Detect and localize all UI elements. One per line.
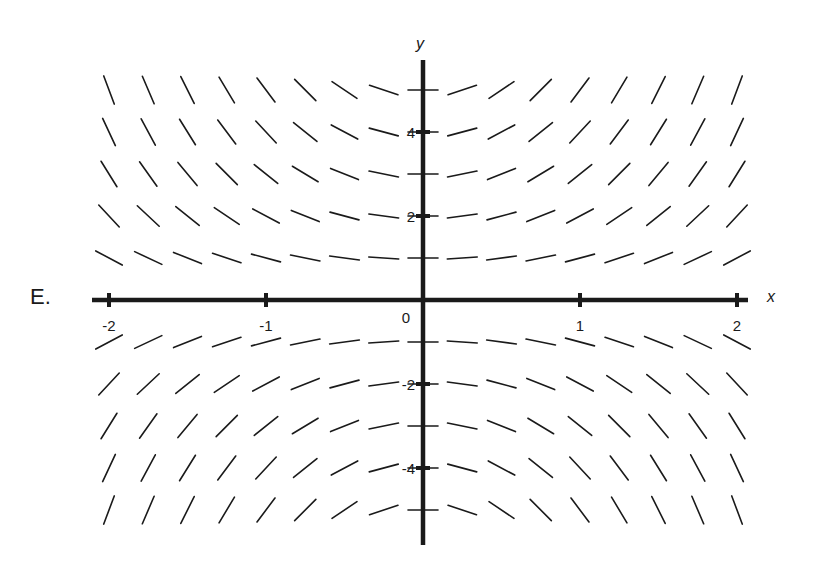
slope-segment <box>104 496 115 524</box>
slope-segment <box>137 374 159 395</box>
slope-segment <box>135 336 162 349</box>
y-tick-label: -4 <box>402 460 415 477</box>
slope-segment <box>612 497 627 523</box>
x-tick-label: 0 <box>402 309 410 326</box>
slope-segment <box>254 165 277 184</box>
slope-field-chart: -2-1012-4-224xy <box>0 0 816 565</box>
slope-segment <box>99 205 119 227</box>
slope-segment <box>488 125 514 139</box>
slope-segment <box>253 377 279 391</box>
x-tick-label: 1 <box>576 317 584 334</box>
slope-segment <box>649 414 668 437</box>
slope-segment <box>330 340 360 344</box>
y-tick-label: 4 <box>407 124 415 141</box>
slope-segment <box>647 207 670 226</box>
slope-segment <box>727 373 747 395</box>
slope-segment <box>689 162 706 186</box>
slope-segment <box>330 256 360 260</box>
slope-segment <box>692 76 704 104</box>
slope-segment <box>295 499 316 520</box>
slope-segment <box>607 376 632 393</box>
slope-segment <box>291 339 320 345</box>
slope-segment <box>652 497 665 524</box>
slope-segment <box>651 455 667 480</box>
slope-segment <box>253 209 279 223</box>
slope-segment <box>526 339 555 345</box>
slope-segment <box>174 336 202 347</box>
slope-segment <box>566 254 595 262</box>
slope-segment <box>732 76 743 104</box>
slope-segment <box>140 414 157 438</box>
slope-segment <box>214 208 239 225</box>
slope-segment <box>330 380 359 388</box>
slope-segment <box>294 123 317 142</box>
slope-segment <box>567 377 593 391</box>
slope-segment <box>487 340 517 344</box>
slope-segment <box>370 505 398 515</box>
slope-segment <box>142 496 154 524</box>
slope-segment <box>732 496 743 524</box>
axes <box>92 60 748 545</box>
slope-segment <box>645 336 673 347</box>
slope-segment <box>566 338 595 346</box>
slope-segment <box>256 121 276 143</box>
slope-segment <box>291 210 319 221</box>
slope-segment <box>489 82 514 99</box>
y-tick-label: 2 <box>407 208 415 225</box>
slope-segment <box>448 85 476 95</box>
slope-segment <box>294 459 317 478</box>
slope-segment <box>96 335 122 349</box>
slope-segment <box>99 373 119 395</box>
slope-segment <box>687 374 709 395</box>
slope-segment <box>610 120 628 144</box>
slope-segment <box>448 128 477 136</box>
slope-segment <box>724 335 750 349</box>
x-tick-label: -2 <box>102 317 115 334</box>
slope-segment <box>487 212 516 220</box>
slope-segment <box>256 457 276 479</box>
slope-segment <box>567 209 593 223</box>
slope-segment <box>447 341 477 343</box>
slope-segment <box>291 378 319 389</box>
slope-segment <box>488 168 516 179</box>
slope-segment <box>610 456 628 480</box>
x-tick-label: 2 <box>733 317 741 334</box>
slope-segment <box>180 119 196 144</box>
slope-segment <box>529 123 552 142</box>
slope-segment <box>687 206 709 227</box>
slope-segment <box>528 166 554 181</box>
slope-segment <box>568 165 591 184</box>
slope-segment <box>369 423 398 429</box>
slope-segment <box>612 77 627 103</box>
slope-segment <box>178 414 197 437</box>
slope-segment <box>135 252 162 265</box>
slope-segment <box>141 119 155 145</box>
y-tick-label: -2 <box>402 376 415 393</box>
slope-segment <box>447 257 477 259</box>
slope-segment <box>181 77 194 104</box>
slope-segment <box>448 464 477 472</box>
slope-segment <box>96 251 122 265</box>
slope-segment <box>527 378 555 389</box>
slope-segment <box>731 454 744 481</box>
slope-segment <box>605 337 633 347</box>
slope-segment <box>213 337 241 347</box>
slope-segment <box>218 120 236 144</box>
slope-segment <box>369 341 399 343</box>
slope-segment <box>216 415 237 436</box>
slope-segment <box>137 206 159 227</box>
slope-segment <box>568 417 591 436</box>
y-axis-label: y <box>415 35 425 52</box>
slope-segment <box>607 208 632 225</box>
slope-segment <box>174 252 202 263</box>
slope-segment <box>219 77 234 103</box>
slope-segment <box>214 376 239 393</box>
x-tick-label: -1 <box>259 317 272 334</box>
slope-segment <box>645 252 673 263</box>
slope-segment <box>369 382 399 386</box>
slope-segment <box>292 166 318 181</box>
slope-segment <box>330 212 359 220</box>
slope-segment <box>689 414 706 438</box>
slope-segment <box>448 423 477 429</box>
slope-segment <box>651 119 667 144</box>
